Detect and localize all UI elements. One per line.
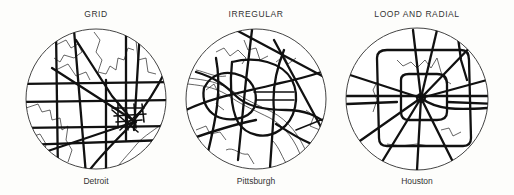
houston-street-map — [337, 0, 497, 195]
city-label: Detroit — [16, 176, 176, 186]
city-label: Houston — [337, 176, 497, 186]
pittsburgh-street-map — [176, 0, 336, 195]
panel-irregular-pittsburgh: IRREGULAR — [176, 0, 336, 195]
panel-loop-radial-houston: LOOP AND RADIAL — [337, 0, 497, 195]
detroit-street-map — [16, 0, 176, 195]
city-label: Pittsburgh — [176, 176, 336, 186]
panel-grid-detroit: GRID — [16, 0, 176, 195]
